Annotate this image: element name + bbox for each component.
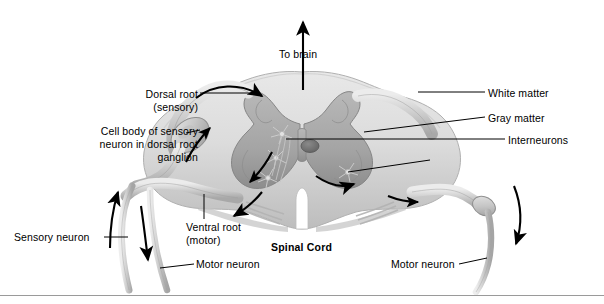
motor-out-arrow-left-icon (141, 206, 148, 260)
label-cell-body-of-sensory-neuron: Cell body of sensory neuron in dorsal ro… (22, 125, 198, 164)
left-sensory-fibre (121, 186, 132, 290)
label-motor-neuron-left: Motor neuron (196, 258, 260, 271)
right-motor-fibre (476, 212, 491, 292)
label-gray-matter: Gray matter (488, 112, 545, 125)
label-white-matter: White matter (488, 87, 549, 100)
bottom-divider (0, 295, 604, 296)
right-peripheral-fibres (476, 212, 491, 292)
label-motor-neuron-right: Motor neuron (391, 258, 455, 271)
leader-motor-neuron-right (459, 258, 487, 264)
label-dorsal-root: Dorsal root (sensory) (94, 88, 198, 114)
label-interneurons: Interneurons (508, 134, 568, 147)
label-sensory-neuron: Sensory neuron (14, 231, 90, 244)
spinal-cord-reflex-arc-figure: To brain Dorsal root (sensory) Cell body… (0, 0, 604, 304)
motor-out-arrow-right-icon (514, 186, 520, 244)
label-ventral-root: Ventral root (motor) (186, 221, 241, 247)
label-spinal-cord: Spinal Cord (271, 241, 332, 254)
sensory-in-arrow-icon (110, 192, 118, 248)
central-canal (301, 140, 319, 153)
left-motor-fibre (150, 190, 167, 290)
leader-motor-neuron-left (160, 264, 194, 268)
label-to-brain: To brain (279, 48, 317, 61)
